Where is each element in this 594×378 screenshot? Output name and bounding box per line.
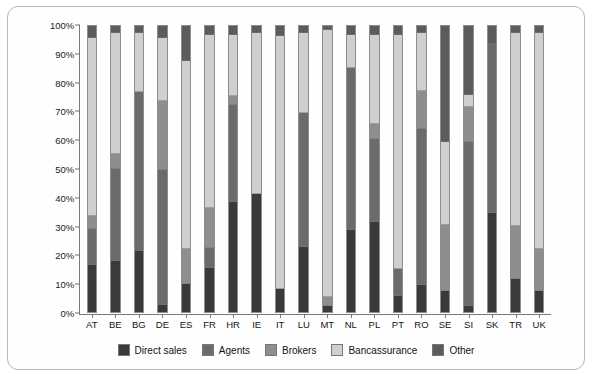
stacked-bar[interactable] (369, 25, 380, 313)
stacked-bar[interactable] (346, 25, 357, 313)
legend-item-agents[interactable]: Agents (202, 344, 250, 356)
bar-column[interactable] (157, 25, 168, 313)
y-axis-tick-mark (75, 140, 80, 141)
x-axis-label-hr: HR (226, 319, 240, 330)
stacked-bar[interactable] (463, 25, 474, 313)
x-axis-label-ro: RO (414, 319, 428, 330)
y-axis-tick-label: 20% (55, 250, 74, 261)
bar-column[interactable] (275, 25, 286, 313)
bar-segment-brokers (182, 249, 191, 284)
bar-segment-brokers (323, 297, 332, 306)
bar-segment-bancassurance (111, 33, 120, 154)
bar-segment-bancassurance (135, 33, 144, 92)
bar-segment-direct-sales (88, 265, 97, 312)
bar-segment-agents (347, 68, 356, 230)
bar-segment-direct-sales (511, 279, 520, 312)
y-axis-tick-label: 90% (55, 48, 74, 59)
legend-label: Other (449, 345, 474, 356)
stacked-bar[interactable] (87, 25, 98, 313)
stacked-bar[interactable] (204, 25, 215, 313)
bar-segment-other (276, 26, 285, 36)
chart-figure: 0%10%20%30%40%50%60%70%80%90%100% Direct… (7, 6, 585, 370)
stacked-bar[interactable] (181, 25, 192, 313)
bar-segment-brokers (417, 91, 426, 129)
bar-segment-bancassurance (158, 38, 167, 101)
bar-segment-agents (88, 229, 97, 265)
stacked-bar[interactable] (134, 25, 145, 313)
y-axis-tick-label: 80% (55, 77, 74, 88)
bar-column[interactable] (487, 25, 498, 313)
y-axis-tick-mark (75, 111, 80, 112)
bar-column[interactable] (534, 25, 545, 313)
x-axis-label-fr: FR (203, 319, 216, 330)
x-axis-tick-mark (398, 314, 399, 318)
bar-segment-agents (135, 92, 144, 251)
stacked-bar[interactable] (251, 25, 262, 313)
bar-segment-agents (394, 269, 403, 297)
x-axis-tick-mark (186, 314, 187, 318)
stacked-bar[interactable] (510, 25, 521, 313)
bar-column[interactable] (228, 25, 239, 313)
stacked-bar[interactable] (275, 25, 286, 313)
x-axis-tick-mark (351, 314, 352, 318)
stacked-bar[interactable] (228, 25, 239, 313)
bar-column[interactable] (181, 25, 192, 313)
bar-column[interactable] (87, 25, 98, 313)
stacked-bar[interactable] (416, 25, 427, 313)
legend-item-other[interactable]: Other (432, 344, 474, 356)
y-axis-tick-mark (75, 313, 80, 314)
bar-segment-brokers (158, 101, 167, 170)
bar-segment-bancassurance (229, 35, 238, 95)
bar-column[interactable] (298, 25, 309, 313)
x-axis-tick-mark (92, 314, 93, 318)
bar-segment-brokers (464, 107, 473, 142)
bar-column[interactable] (510, 25, 521, 313)
bar-column[interactable] (204, 25, 215, 313)
x-axis-tick-mark (304, 314, 305, 318)
bar-segment-bancassurance (299, 33, 308, 113)
x-axis-tick-mark (374, 314, 375, 318)
bar-column[interactable] (251, 25, 262, 313)
x-axis-tick-mark (162, 314, 163, 318)
stacked-bar[interactable] (298, 25, 309, 313)
y-axis-tick-mark (75, 82, 80, 83)
legend-item-direct-sales[interactable]: Direct sales (118, 344, 187, 356)
y-axis-tick-mark (75, 25, 80, 26)
bar-segment-bancassurance (323, 30, 332, 297)
bar-column[interactable] (416, 25, 427, 313)
stacked-bar[interactable] (393, 25, 404, 313)
x-axis-tick-mark (445, 314, 446, 318)
bar-segment-direct-sales (135, 251, 144, 312)
y-axis-tick-label: 0% (60, 308, 74, 319)
bar-column[interactable] (463, 25, 474, 313)
bar-segment-other (299, 26, 308, 33)
legend-item-brokers[interactable]: Brokers (265, 344, 316, 356)
stacked-bar[interactable] (110, 25, 121, 313)
bar-column[interactable] (369, 25, 380, 313)
bar-segment-bancassurance (252, 33, 261, 194)
bar-segment-other (182, 26, 191, 61)
bar-segment-agents (158, 170, 167, 305)
bar-column[interactable] (440, 25, 451, 313)
stacked-bar[interactable] (157, 25, 168, 313)
bar-segment-other (229, 26, 238, 35)
bar-column[interactable] (110, 25, 121, 313)
bar-column[interactable] (393, 25, 404, 313)
x-axis-label-sk: SK (486, 319, 499, 330)
x-axis-tick-mark (327, 314, 328, 318)
bar-segment-direct-sales (158, 305, 167, 312)
legend-item-bancassurance[interactable]: Bancassurance (331, 344, 417, 356)
stacked-bar[interactable] (440, 25, 451, 313)
bar-segment-bancassurance (276, 36, 285, 290)
bar-column[interactable] (322, 25, 333, 313)
stacked-bar[interactable] (487, 25, 498, 313)
bar-column[interactable] (346, 25, 357, 313)
bar-segment-direct-sales (299, 247, 308, 312)
stacked-bar[interactable] (322, 25, 333, 313)
bar-segment-other (417, 26, 426, 33)
x-axis-tick-mark (421, 314, 422, 318)
x-axis-label-si: SI (464, 319, 473, 330)
bar-segment-other (158, 26, 167, 38)
bar-column[interactable] (134, 25, 145, 313)
stacked-bar[interactable] (534, 25, 545, 313)
